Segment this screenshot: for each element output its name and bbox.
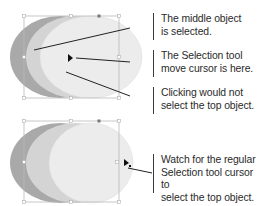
callout-move-cursor: The Selection tool move cursor is here. [161,50,253,75]
callout-watch-cursor: Watch for the regular Selection tool cur… [161,154,258,204]
callout-bar-would-not-select [153,87,154,114]
callout-middle-selected: The middle object is selected. [161,13,241,38]
callout-would-not-select: Clicking would not select the top object… [161,87,254,112]
callout-bar-middle-selected [153,13,154,40]
anchor-point [98,120,101,123]
bottom-diagram [10,120,152,204]
callout-bar-watch-cursor [153,154,154,193]
anchor-point [98,15,101,18]
top-ellipse [49,123,133,203]
callout-bar-move-cursor [153,50,154,77]
top-diagram [10,15,142,100]
